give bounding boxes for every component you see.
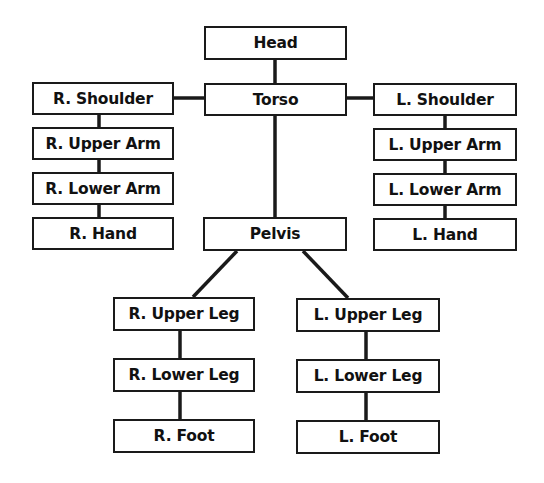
node-l-foot: L. Foot (296, 420, 440, 454)
node-r-upper-arm: R. Upper Arm (32, 127, 174, 160)
node-r-lower-arm: R. Lower Arm (32, 172, 174, 205)
node-l-shoulder: L. Shoulder (373, 83, 517, 116)
node-l-upper-arm: L. Upper Arm (373, 128, 517, 161)
node-r-lower-leg: R. Lower Leg (113, 358, 255, 392)
node-r-hand: R. Hand (32, 217, 174, 250)
node-torso: Torso (204, 83, 347, 116)
node-r-shoulder: R. Shoulder (32, 82, 174, 115)
node-head: Head (204, 26, 347, 60)
node-l-lower-leg: L. Lower Leg (296, 359, 440, 393)
node-l-lower-arm: L. Lower Arm (373, 173, 517, 206)
edge-pelvis-r-upper-leg (193, 251, 237, 297)
node-r-foot: R. Foot (113, 419, 255, 453)
node-l-hand: L. Hand (373, 218, 517, 251)
edge-pelvis-l-upper-leg (303, 251, 348, 298)
node-l-upper-leg: L. Upper Leg (296, 298, 440, 332)
body-hierarchy-diagram: Head Torso R. Shoulder R. Upper Arm R. L… (0, 0, 544, 483)
node-pelvis: Pelvis (203, 217, 347, 251)
node-r-upper-leg: R. Upper Leg (113, 297, 255, 331)
